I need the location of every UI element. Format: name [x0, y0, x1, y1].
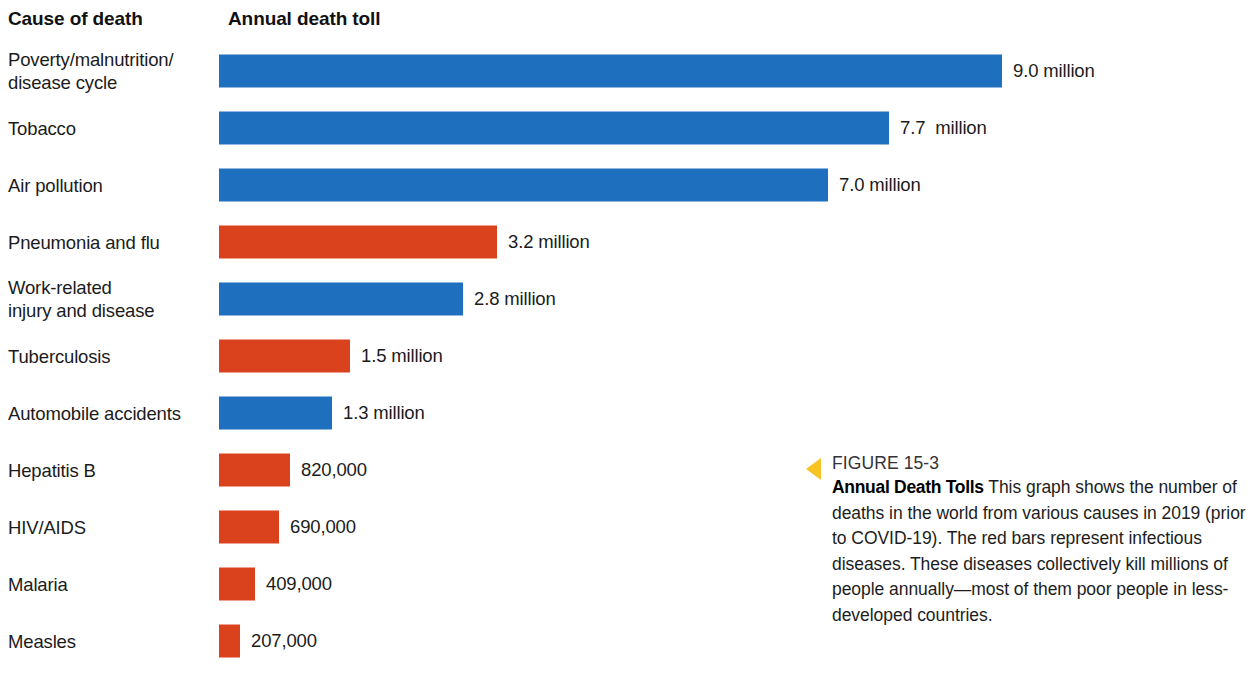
- chart-row-label: Tuberculosis: [8, 344, 213, 367]
- chart-bar-group: 409,000: [219, 567, 332, 600]
- chart-row-label: Hepatitis B: [8, 458, 213, 481]
- chart-row: Pneumonia and flu3.2 million: [0, 213, 1100, 270]
- chart-bar-value: 1.5 million: [361, 345, 443, 367]
- chart-bar[interactable]: [219, 339, 350, 372]
- chart-bar-group: 820,000: [219, 453, 367, 486]
- chart-row-label: Air pollution: [8, 173, 213, 196]
- chart-bar[interactable]: [219, 453, 290, 486]
- chart-bar[interactable]: [219, 168, 828, 201]
- chart-bar-value: 1.3 million: [343, 402, 425, 424]
- chart-bar-group: 3.2 million: [219, 225, 590, 258]
- chart-bar-group: 207,000: [219, 624, 317, 657]
- chart-bar[interactable]: [219, 282, 463, 315]
- figure-caption: FIGURE 15-3 Annual Death Tolls This grap…: [806, 452, 1252, 628]
- chart-row: Work-related injury and disease2.8 milli…: [0, 270, 1100, 327]
- chart-row-label: HIV/AIDS: [8, 515, 213, 538]
- chart-row: Air pollution7.0 million: [0, 156, 1100, 213]
- chart-row-label: Tobacco: [8, 116, 213, 139]
- caption-description: This graph shows the number of deaths in…: [832, 477, 1246, 625]
- chart-bar-value: 690,000: [290, 516, 356, 538]
- chart-bar-value: 7.7 million: [900, 117, 987, 139]
- chart-row-label: Malaria: [8, 572, 213, 595]
- chart-bar-group: 7.0 million: [219, 168, 921, 201]
- chart-bar[interactable]: [219, 225, 497, 258]
- chart-bar-value: 9.0 million: [1013, 60, 1095, 82]
- figure-page: Cause of death Annual death toll Poverty…: [0, 0, 1256, 692]
- chart-bar-group: 2.8 million: [219, 282, 556, 315]
- chart-row-label: Measles: [8, 629, 213, 652]
- chart-bar[interactable]: [219, 396, 332, 429]
- chart-row: Poverty/malnutrition/ disease cycle9.0 m…: [0, 42, 1100, 99]
- caption-paragraph: Annual Death Tolls This graph shows the …: [832, 475, 1252, 628]
- chart-bar-value: 207,000: [251, 630, 317, 652]
- chart-bar-group: 9.0 million: [219, 54, 1095, 87]
- chart-bar-value: 409,000: [266, 573, 332, 595]
- chart-row-label: Poverty/malnutrition/ disease cycle: [8, 48, 213, 94]
- chart-row: Tuberculosis1.5 million: [0, 327, 1100, 384]
- chart-bar[interactable]: [219, 111, 889, 144]
- chart-row-label: Pneumonia and flu: [8, 230, 213, 253]
- chart-bar[interactable]: [219, 54, 1002, 87]
- figure-number: FIGURE 15-3: [832, 452, 1252, 475]
- chart-bar-value: 820,000: [301, 459, 367, 481]
- chart-bar[interactable]: [219, 567, 255, 600]
- chart-row-label: Automobile accidents: [8, 401, 213, 424]
- chart-bar-group: 1.3 million: [219, 396, 425, 429]
- chart-bar-value: 2.8 million: [474, 288, 556, 310]
- chart-bar-group: 7.7 million: [219, 111, 987, 144]
- chart-row: Tobacco7.7 million: [0, 99, 1100, 156]
- chart-bar-group: 690,000: [219, 510, 356, 543]
- chart-bar-value: 7.0 million: [839, 174, 921, 196]
- chart-bar[interactable]: [219, 624, 240, 657]
- chart-row: Automobile accidents1.3 million: [0, 384, 1100, 441]
- chart-bar[interactable]: [219, 510, 279, 543]
- caption-body: FIGURE 15-3 Annual Death Tolls This grap…: [832, 452, 1252, 628]
- chart-row-label: Work-related injury and disease: [8, 276, 213, 322]
- caption-title: Annual Death Tolls: [832, 477, 984, 497]
- chart-bar-group: 1.5 million: [219, 339, 443, 372]
- chart-bar-value: 3.2 million: [508, 231, 590, 253]
- left-triangle-icon: [806, 458, 821, 480]
